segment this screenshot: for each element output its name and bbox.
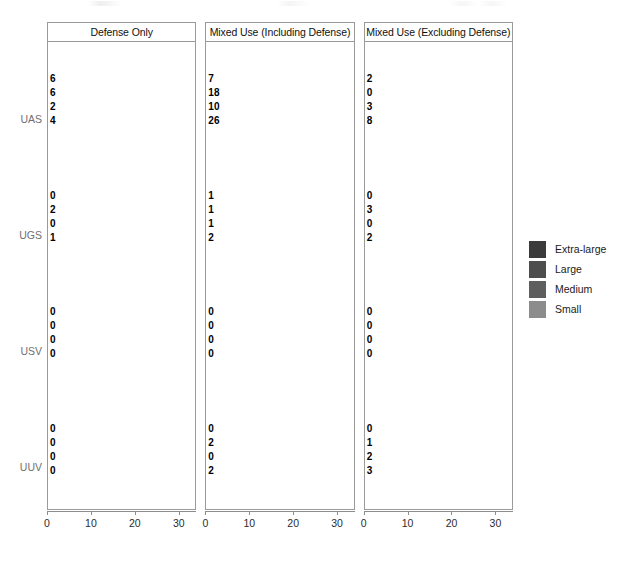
bar-row: 0 bbox=[365, 421, 373, 436]
legend-label: Medium bbox=[555, 283, 592, 295]
plot-area-3: 2038030200000123 bbox=[364, 42, 513, 510]
legend-swatch-icon bbox=[529, 261, 546, 278]
bar-row: 2 bbox=[48, 202, 56, 217]
bar-row: 26 bbox=[206, 114, 219, 129]
panel-title: Mixed Use (Excluding Defense) bbox=[366, 26, 510, 38]
x-tick-label: 20 bbox=[129, 517, 141, 529]
bar-row: 0 bbox=[48, 319, 56, 334]
bar-value-label: 0 bbox=[50, 466, 56, 476]
x-tick-label: 30 bbox=[490, 517, 502, 529]
bar-row: 0 bbox=[365, 86, 373, 101]
x-tick-label: 30 bbox=[331, 517, 343, 529]
bar-row: 0 bbox=[48, 188, 56, 203]
x-tick bbox=[249, 511, 250, 515]
bar-row: 0 bbox=[206, 319, 214, 334]
bar-value-label: 0 bbox=[367, 424, 373, 434]
x-axis-line bbox=[364, 511, 513, 512]
bar-value-label: 0 bbox=[208, 452, 214, 462]
bar-value-label: 0 bbox=[367, 349, 373, 359]
bar-value-label: 1 bbox=[208, 219, 214, 229]
bar-value-label: 10 bbox=[208, 102, 219, 112]
bar-row: 0 bbox=[48, 463, 56, 478]
bar-value-label: 0 bbox=[50, 191, 56, 201]
bar-row: 2 bbox=[206, 435, 214, 450]
legend-item-extra-large[interactable]: Extra-large bbox=[529, 240, 606, 258]
legend-item-small[interactable]: Small bbox=[529, 300, 606, 318]
bar-group-usv: 0000 bbox=[206, 275, 353, 392]
bar-row: 1 bbox=[206, 188, 214, 203]
bar-row: 8 bbox=[365, 114, 373, 129]
x-tick bbox=[495, 511, 496, 515]
bar-value-label: 0 bbox=[50, 424, 56, 434]
bar-row: 0 bbox=[206, 421, 214, 436]
bar-value-label: 2 bbox=[367, 233, 373, 243]
bars-container: 7181026111200000202 bbox=[206, 42, 353, 509]
bar-row: 6 bbox=[48, 86, 56, 101]
bar-row: 6 bbox=[48, 72, 56, 87]
panel-title: Mixed Use (Including Defense) bbox=[210, 26, 351, 38]
bar-row: 18 bbox=[206, 86, 219, 101]
bar-row: 2 bbox=[365, 72, 373, 87]
bar-value-label: 4 bbox=[50, 116, 56, 126]
bar-group-uuv: 0202 bbox=[206, 392, 353, 509]
bar-row: 3 bbox=[365, 463, 373, 478]
bar-value-label: 1 bbox=[208, 205, 214, 215]
bar-value-label: 0 bbox=[367, 219, 373, 229]
bar-group-usv: 0000 bbox=[365, 275, 512, 392]
legend-swatch-icon bbox=[529, 301, 546, 318]
bar-group-uas: 2038 bbox=[365, 42, 512, 159]
bar-group-usv: 0000 bbox=[48, 275, 195, 392]
bar-value-label: 6 bbox=[50, 88, 56, 98]
bars-container: 6624020100000000 bbox=[48, 42, 195, 509]
bar-row: 0 bbox=[48, 435, 56, 450]
y-category-label-uas: UAS bbox=[2, 113, 42, 125]
x-axis-1: 0102030 bbox=[47, 511, 196, 533]
x-axis-2: 0102030 bbox=[205, 511, 354, 533]
legend-label: Extra-large bbox=[555, 243, 606, 255]
bar-value-label: 2 bbox=[367, 74, 373, 84]
panel-2: Mixed Use (Including Defense)71810261112… bbox=[205, 22, 354, 510]
bar-value-label: 3 bbox=[367, 205, 373, 215]
bar-value-label: 0 bbox=[208, 424, 214, 434]
bar-row: 2 bbox=[365, 230, 373, 245]
x-tick bbox=[408, 511, 409, 515]
bar-group-ugs: 1112 bbox=[206, 159, 353, 276]
bars-container: 2038030200000123 bbox=[365, 42, 512, 509]
bar-row: 10 bbox=[206, 100, 219, 115]
bar-value-label: 0 bbox=[50, 307, 56, 317]
bar-group-uuv: 0000 bbox=[48, 392, 195, 509]
legend-swatch-icon bbox=[529, 281, 546, 298]
panel-title: Defense Only bbox=[90, 26, 152, 38]
x-tick-label: 20 bbox=[446, 517, 458, 529]
x-tick-label: 20 bbox=[287, 517, 299, 529]
x-axis-3: 0102030 bbox=[364, 511, 513, 533]
bar-row: 0 bbox=[206, 449, 214, 464]
legend-item-medium[interactable]: Medium bbox=[529, 280, 606, 298]
bar-value-label: 2 bbox=[208, 233, 214, 243]
bar-row: 3 bbox=[365, 202, 373, 217]
x-tick bbox=[364, 511, 365, 515]
x-axis-line bbox=[205, 511, 354, 512]
bar-value-label: 1 bbox=[367, 438, 373, 448]
bar-row: 0 bbox=[365, 347, 373, 362]
legend-item-large[interactable]: Large bbox=[529, 260, 606, 278]
y-category-label-usv: USV bbox=[2, 345, 42, 357]
bar-row: 0 bbox=[48, 216, 56, 231]
x-tick bbox=[179, 511, 180, 515]
bar-value-label: 26 bbox=[208, 116, 219, 126]
x-tick-label: 0 bbox=[202, 517, 208, 529]
y-category-label-uuv: UUV bbox=[2, 461, 42, 473]
bar-value-label: 2 bbox=[208, 438, 214, 448]
bar-row: 2 bbox=[48, 100, 56, 115]
bar-value-label: 2 bbox=[208, 466, 214, 476]
legend-swatch-icon bbox=[529, 241, 546, 258]
bar-value-label: 0 bbox=[50, 219, 56, 229]
scan-artifact bbox=[88, 1, 508, 6]
x-axis-line bbox=[47, 511, 196, 512]
bar-value-label: 1 bbox=[208, 191, 214, 201]
bar-value-label: 0 bbox=[208, 335, 214, 345]
bar-value-label: 0 bbox=[50, 321, 56, 331]
bar-group-uuv: 0123 bbox=[365, 392, 512, 509]
bar-row: 0 bbox=[48, 421, 56, 436]
bar-row: 0 bbox=[48, 333, 56, 348]
